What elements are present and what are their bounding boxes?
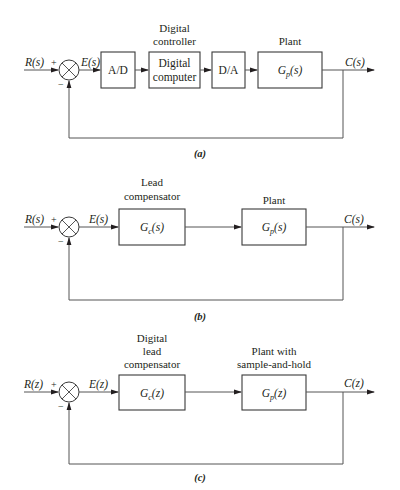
plant-caption: Plant [279, 35, 302, 47]
summing-junction [59, 217, 79, 237]
input-signal-label: R(z) [23, 378, 43, 391]
sum-plus-sign: + [51, 57, 57, 68]
digital-computer-label-2: computer [153, 71, 197, 84]
digital-lead-compensator-caption-2: lead [143, 345, 162, 357]
digital-controller-caption-2: controller [153, 35, 196, 47]
ad-converter-label: A/D [108, 64, 128, 76]
lead-compensator-caption-2: compensator [124, 190, 181, 202]
caption-c: (c) [194, 472, 206, 484]
output-signal-label: C(z) [344, 377, 364, 390]
lead-compensator-caption-1: Lead [141, 176, 163, 188]
sum-plus-sign: + [51, 379, 57, 390]
summing-junction [59, 60, 79, 80]
output-signal-label: C(s) [344, 213, 364, 226]
block-diagram-figure: R(s) + − E(s) A/D Digital controller Dig… [0, 0, 400, 490]
diagram-a: R(s) + − E(s) A/D Digital controller Dig… [24, 22, 374, 160]
summing-junction [59, 382, 79, 402]
sum-minus-sign: − [58, 236, 64, 247]
plant-caption: Plant [263, 194, 286, 206]
output-signal-label: C(s) [345, 56, 365, 69]
digital-controller-caption-1: Digital [159, 22, 190, 34]
sum-plus-sign: + [51, 214, 57, 225]
digital-lead-compensator-caption-1: Digital [137, 332, 168, 344]
error-signal-label: E(s) [80, 56, 100, 69]
digital-lead-compensator-caption-3: compensator [124, 358, 181, 370]
input-signal-label: R(s) [24, 213, 44, 226]
plant-caption-1: Plant with [252, 345, 297, 357]
plant-caption-2: sample-and-hold [237, 358, 311, 370]
da-converter-label: D/A [219, 64, 240, 76]
sum-minus-sign: − [58, 79, 64, 90]
diagram-c: R(z) + − E(z) Digital lead compensator G… [23, 332, 374, 484]
error-signal-label: E(s) [88, 213, 108, 226]
digital-computer-label-1: Digital [159, 57, 191, 70]
input-signal-label: R(s) [24, 56, 44, 69]
diagram-b: R(s) + − E(s) Lead compensator Gc(s) Pla… [24, 176, 374, 323]
caption-a: (a) [194, 148, 206, 160]
error-signal-label: E(z) [88, 378, 108, 391]
sum-minus-sign: − [58, 401, 64, 412]
caption-b: (b) [194, 311, 206, 323]
